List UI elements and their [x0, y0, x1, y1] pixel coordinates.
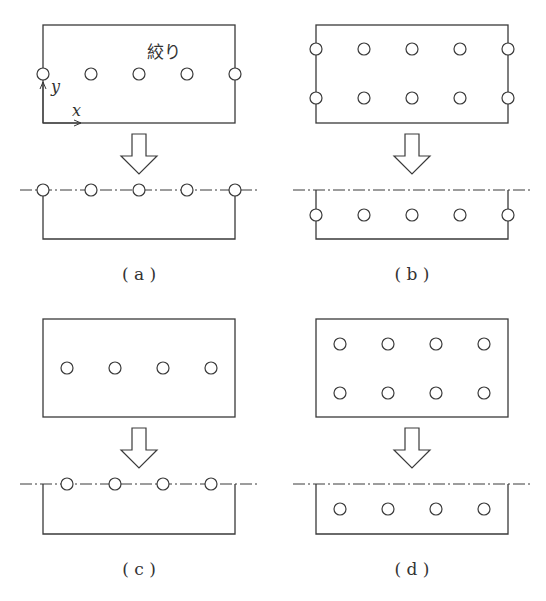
hole-icon	[454, 92, 466, 104]
down-arrow-icon	[394, 428, 430, 468]
hole-icon	[109, 478, 121, 490]
panel-a: ( a )絞りxy	[20, 25, 257, 284]
panel-caption: ( c )	[122, 559, 156, 579]
panel-caption: ( b )	[395, 264, 430, 284]
plate-half	[43, 190, 235, 239]
hole-icon	[157, 478, 169, 490]
panel-caption: ( d )	[395, 559, 430, 579]
hole-icon	[61, 478, 73, 490]
hole-icon	[310, 92, 322, 104]
hole-icon	[454, 209, 466, 221]
hole-icon	[430, 387, 442, 399]
hole-icon	[406, 92, 418, 104]
hole-icon	[205, 362, 217, 374]
hole-icon	[181, 68, 193, 80]
plate-full	[316, 319, 508, 417]
hole-icon	[502, 209, 514, 221]
down-arrow-icon	[394, 134, 430, 174]
hole-icon	[85, 184, 97, 196]
fold-symmetry-diagram: ( a )絞りxy( b )( c )( d )	[0, 0, 546, 601]
panel-b: ( b )	[293, 25, 530, 284]
hole-icon	[310, 43, 322, 55]
hole-icon	[502, 92, 514, 104]
hole-icon	[109, 362, 121, 374]
hole-icon	[406, 43, 418, 55]
hole-icon	[205, 478, 217, 490]
hole-icon	[430, 503, 442, 515]
hole-icon	[133, 68, 145, 80]
hole-icon	[334, 338, 346, 350]
hole-icon	[382, 338, 394, 350]
hole-icon	[382, 503, 394, 515]
hole-icon	[133, 184, 145, 196]
hole-icon	[37, 68, 49, 80]
hole-icon	[310, 209, 322, 221]
hole-icon	[85, 68, 97, 80]
hole-icon	[478, 338, 490, 350]
plate-full	[316, 25, 508, 123]
hole-icon	[406, 209, 418, 221]
hole-icon	[430, 338, 442, 350]
hole-icon	[478, 387, 490, 399]
hole-icon	[358, 209, 370, 221]
hole-icon	[334, 503, 346, 515]
hole-icon	[229, 68, 241, 80]
orifice-label: 絞り	[147, 42, 181, 62]
x-axis-label: x	[72, 101, 81, 120]
hole-icon	[61, 362, 73, 374]
hole-icon	[229, 184, 241, 196]
panel-c: ( c )	[20, 319, 257, 579]
panel-caption: ( a )	[122, 264, 156, 284]
hole-icon	[502, 43, 514, 55]
hole-icon	[382, 387, 394, 399]
plate-half	[43, 484, 235, 534]
hole-icon	[358, 92, 370, 104]
panel-d: ( d )	[293, 319, 530, 579]
down-arrow-icon	[121, 428, 157, 468]
hole-icon	[358, 43, 370, 55]
hole-icon	[157, 362, 169, 374]
y-axis-label: y	[50, 77, 61, 96]
hole-icon	[334, 387, 346, 399]
down-arrow-icon	[121, 134, 157, 174]
hole-icon	[454, 43, 466, 55]
hole-icon	[181, 184, 193, 196]
hole-icon	[478, 503, 490, 515]
hole-icon	[37, 184, 49, 196]
